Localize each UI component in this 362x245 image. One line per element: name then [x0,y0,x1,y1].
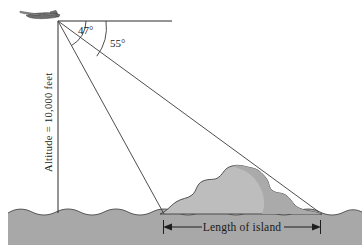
sight-line-near-shore [58,21,164,214]
figure-root: 47° 55° Altitude = 10,000 feet [0,0,362,245]
angle-label-55: 55° [110,37,125,49]
angle-label-47: 47° [78,24,93,36]
length-of-island-label: Length of island [203,221,282,234]
island-shape [160,165,322,214]
diagram-canvas: 47° 55° Altitude = 10,000 feet [0,0,362,245]
airplane-icon [20,10,60,18]
altitude-label: Altitude = 10,000 feet [43,73,54,172]
sight-line-far-shore [58,21,319,212]
island-group [160,165,322,214]
